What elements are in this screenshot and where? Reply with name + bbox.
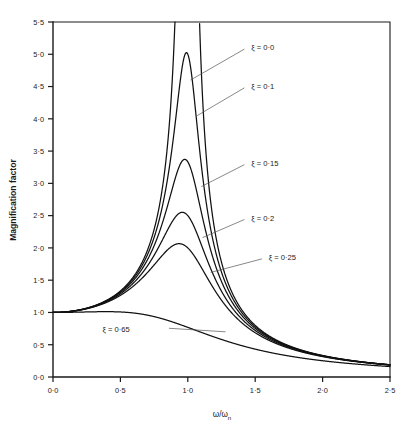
y-tick-label: 0·0	[33, 373, 44, 382]
x-axis-title-main: ω/ω	[213, 410, 229, 419]
curve-labels: ξ = 0·0ξ = 0·1ξ = 0·15ξ = 0·2ξ = 0·25ξ =…	[103, 43, 296, 334]
x-tick-label: 0·5	[115, 386, 126, 395]
plot-frame	[53, 22, 390, 377]
x-axis-tick-labels: 0·00·51·01·52·02·5	[48, 386, 396, 395]
curve-label: ξ = 0·1	[251, 82, 274, 91]
curve-label: ξ = 0·0	[251, 43, 274, 52]
y-tick-label: 0·5	[33, 341, 44, 350]
y-tick-label: 3·0	[33, 179, 44, 188]
y-tick-label: 5·0	[33, 50, 44, 59]
leader-line	[197, 88, 244, 116]
y-tick-label: 2·5	[33, 211, 44, 220]
x-tick-label: 1·0	[182, 386, 193, 395]
y-tick-label: 4·0	[33, 115, 44, 124]
y-tick-label: 1·0	[33, 308, 44, 317]
y-tick-label: 1·5	[33, 276, 44, 285]
curve-label: ξ = 0·65	[103, 325, 130, 334]
curve-zeta-0-1	[53, 53, 390, 365]
damping-curves	[53, 22, 390, 367]
y-axis-title: Magnification factor	[8, 159, 18, 241]
y-tick-label: 3·5	[33, 147, 44, 156]
x-tick-label: 1·5	[250, 386, 261, 395]
x-axis-title: ω/ωn	[213, 410, 232, 421]
curve-label: ξ = 0·15	[251, 159, 278, 168]
curve-label-leader-lines	[169, 49, 262, 332]
curve-label: ξ = 0·25	[269, 253, 296, 262]
y-tick-label: 2·0	[33, 244, 44, 253]
y-tick-label: 4·5	[33, 82, 44, 91]
x-axis-title-subscript: n	[228, 414, 232, 421]
x-tick-label: 0·0	[48, 386, 59, 395]
curve-label: ξ = 0·2	[251, 214, 274, 223]
y-tick-label: 5·5	[33, 18, 44, 27]
curve-zeta-0	[53, 22, 390, 365]
y-axis-tick-labels: 0·00·51·01·52·02·53·03·54·04·55·05·5	[33, 18, 44, 382]
x-axis-ticks	[53, 377, 390, 382]
magnification-factor-chart: 0·00·51·01·52·02·5 0·00·51·01·52·02·53·0…	[0, 0, 406, 432]
y-axis-ticks	[48, 22, 53, 377]
x-tick-label: 2·0	[317, 386, 328, 395]
curve-zeta-0-2	[53, 212, 390, 365]
leader-line	[190, 49, 244, 80]
x-tick-label: 2·5	[385, 386, 396, 395]
